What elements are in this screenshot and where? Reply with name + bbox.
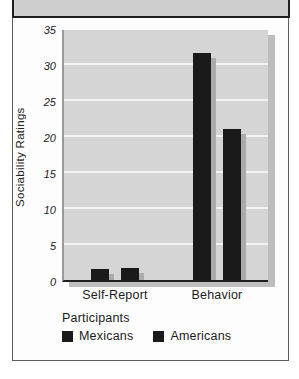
y-tick-label: 25 [26,94,56,110]
y-tick-label: 5 [26,238,56,254]
y-tick-label: 35 [26,22,56,38]
bar-behavior-mexicans [193,53,211,280]
plot-area [62,30,268,282]
bar-behavior-americans [223,129,241,280]
top-strip [12,0,290,18]
figure: Sociability Ratings 35302520151050 Self-… [0,0,299,379]
americans-swatch-icon [153,331,164,342]
gridline [64,99,268,101]
y-tick-label: 30 [26,58,56,74]
legend-label: Mexicans [79,329,133,343]
bar-self-report-americans [121,268,139,280]
y-tick-label: 10 [26,202,56,218]
bar-self-report-mexicans [91,269,109,280]
legend-item-mexicans: Mexicans [62,329,133,343]
x-tick-label: Behavior [157,288,277,302]
legend-label: Americans [170,329,231,343]
plot-clip [64,30,268,280]
y-tick-label: 20 [26,130,56,146]
legend-title: Participants [62,311,130,325]
legend-item-americans: Americans [153,329,231,343]
gridline [64,63,268,65]
legend: Mexicans Americans [62,329,231,343]
mexicans-swatch-icon [62,331,73,342]
y-tick-label: 15 [26,166,56,182]
y-tick-label: 0 [26,274,56,290]
